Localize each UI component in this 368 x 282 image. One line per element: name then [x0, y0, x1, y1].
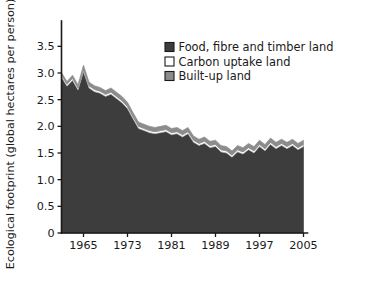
x-tick-label: 2005 [289, 239, 317, 252]
legend-swatch [165, 72, 174, 81]
y-tick-label: 3.0 [37, 67, 55, 80]
plot-area [62, 65, 304, 233]
x-tick-label: 1973 [113, 239, 141, 252]
y-tick-label: 0 [47, 227, 54, 240]
x-tick-label: 1965 [69, 239, 97, 252]
x-tick-label: 1989 [201, 239, 229, 252]
x-axis: 196519731981198919972005 [62, 233, 318, 252]
y-tick-label: 0.5 [37, 200, 55, 213]
x-tick-label: 1981 [157, 239, 185, 252]
x-axis-ticks: 196519731981198919972005 [69, 233, 317, 252]
legend-label: Food, fibre and timber land [179, 40, 334, 54]
y-tick-label: 1.5 [37, 147, 55, 160]
chart-legend: Food, fibre and timber landCarbon uptake… [165, 40, 333, 83]
y-axis: 00.51.01.52.02.53.03.5 [37, 21, 62, 240]
legend-swatch [165, 57, 174, 66]
y-tick-label: 3.5 [37, 40, 55, 53]
legend-swatch [165, 43, 174, 52]
series-area-0 [62, 72, 304, 233]
legend-label: Built-up land [179, 69, 252, 83]
stacked-area-chart: 00.51.01.52.02.53.03.5 19651973198119891… [0, 0, 368, 282]
y-axis-ticks: 00.51.01.52.02.53.03.5 [37, 40, 62, 240]
ecological-footprint-chart-figure: 00.51.01.52.02.53.03.5 19651973198119891… [0, 0, 368, 282]
x-tick-label: 1997 [245, 239, 273, 252]
y-tick-label: 2.0 [37, 120, 55, 133]
legend-label: Carbon uptake land [179, 55, 291, 69]
y-tick-label: 2.5 [37, 94, 55, 107]
series-layer [62, 65, 304, 233]
y-tick-label: 1.0 [37, 174, 55, 187]
y-axis-title: Ecological footprint (global hectares pe… [4, 0, 17, 269]
